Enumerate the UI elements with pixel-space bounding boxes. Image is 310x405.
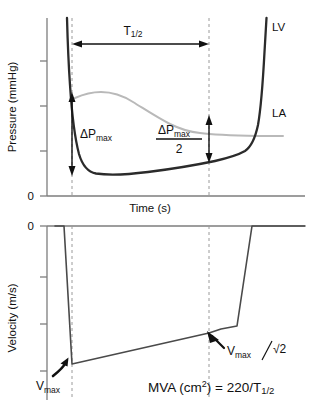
figure-canvas: 0 Pressure (mmHg) Time (s) LV LA T1/2 xyxy=(0,0,310,405)
mva-formula: MVA (cm2) = 220/T1/2 xyxy=(148,379,274,396)
lv-label: LV xyxy=(272,21,286,33)
velocity-envelope-curve xyxy=(55,226,305,364)
halftime-arrow-head-left xyxy=(72,40,82,47)
halftime-annotation: T1/2 xyxy=(72,24,209,48)
pressure-zero-label: 0 xyxy=(28,190,34,202)
dp-half-annotation: ΔPmax 2 xyxy=(156,115,213,163)
mva-formula-mid: ) = 220/T xyxy=(207,380,261,395)
pressure-axis-title: Pressure (mmHg) xyxy=(6,61,18,152)
velocity-zero-label: 0 xyxy=(28,220,34,232)
halftime-label-sub: 1/2 xyxy=(131,29,143,39)
dp-half-numerator-base: ΔP xyxy=(158,123,174,137)
vmax-root2-divider-slash xyxy=(262,341,272,360)
dp-max-label-base: ΔP xyxy=(80,127,96,141)
halftime-arrow-head-right xyxy=(199,40,209,47)
dp-max-label: ΔPmax xyxy=(80,127,113,143)
vmax-root2-label: Vmax xyxy=(227,344,252,360)
vmax-annotation: Vmax xyxy=(36,358,69,395)
lv-pressure-curve xyxy=(67,18,267,175)
dp-half-numerator-sub: max xyxy=(174,129,191,139)
vmax-label-base: V xyxy=(36,379,44,393)
vmax-arrow-shaft xyxy=(53,363,66,376)
pressure-panel: 0 Pressure (mmHg) Time (s) LV LA T1/2 xyxy=(6,18,305,214)
vmax-root2-label-base: V xyxy=(227,344,235,358)
dp-max-label-sub: max xyxy=(96,133,113,143)
dp-half-denominator: 2 xyxy=(176,142,183,156)
time-axis-title: Time (s) xyxy=(129,202,171,214)
vmax-root2-annotation: Vmax √2 xyxy=(207,331,287,360)
velocity-panel: 0 Velocity (m/s) Vmax Vmax xyxy=(6,220,305,400)
vmax-arrow-head xyxy=(61,358,69,367)
la-label: LA xyxy=(272,107,286,119)
dp-half-arrow-head-up xyxy=(206,115,213,125)
vmax-label-sub: max xyxy=(44,385,61,395)
dp-max-arrow-head-down xyxy=(69,166,76,176)
velocity-axis-title: Velocity (m/s) xyxy=(6,283,18,352)
vmax-label: Vmax xyxy=(36,379,61,395)
halftime-label: T1/2 xyxy=(123,24,142,39)
mva-formula-lead: MVA (cm xyxy=(148,380,202,395)
mva-formula-subscript: 1/2 xyxy=(261,385,274,396)
pressure-velocity-figure: 0 Pressure (mmHg) Time (s) LV LA T1/2 xyxy=(0,0,310,405)
vmax-root2-label-sub: max xyxy=(235,350,252,360)
vmax-root2-radical: √2 xyxy=(273,342,287,356)
